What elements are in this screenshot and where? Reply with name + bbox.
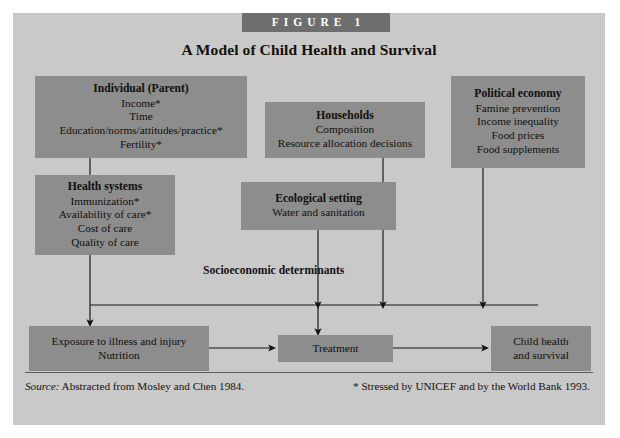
box-ecological-line-0: Water and sanitation bbox=[272, 206, 365, 220]
box-exposure-nutrition: Exposure to illness and injury Nutrition bbox=[29, 326, 209, 371]
box-individual-line-0: Income* bbox=[121, 97, 161, 111]
figure-number-tag: FIGURE 1 bbox=[242, 13, 390, 32]
box-political-line-3: Food supplements bbox=[477, 143, 560, 157]
box-individual-line-3: Fertility* bbox=[120, 138, 162, 152]
box-individual-parent: Individual (Parent) Income* Time Educati… bbox=[35, 76, 247, 158]
footer-source-text: Abstracted from Mosley and Chen 1984. bbox=[59, 380, 244, 392]
figure-footer: Source: Abstracted from Mosley and Chen … bbox=[25, 380, 593, 392]
box-childhealth-line-1: and survival bbox=[513, 349, 569, 363]
box-exposure-line-0: Exposure to illness and injury bbox=[52, 335, 187, 349]
box-health-line-2: Cost of care bbox=[78, 222, 133, 236]
socioeconomic-determinants-label: Socioeconomic determinants bbox=[203, 264, 344, 277]
footer-source-label: Source: bbox=[25, 380, 59, 392]
box-ecological-heading: Ecological setting bbox=[275, 192, 362, 206]
box-households-line-0: Composition bbox=[316, 123, 374, 137]
footer-divider bbox=[25, 372, 593, 373]
box-exposure-line-1: Nutrition bbox=[98, 349, 139, 363]
box-political-heading: Political economy bbox=[474, 87, 561, 101]
box-political-line-1: Income inequality bbox=[477, 115, 559, 129]
box-health-systems: Health systems Immunization* Availabilit… bbox=[35, 175, 175, 255]
figure-panel: FIGURE 1 A Model of Child Health and Sur… bbox=[13, 13, 605, 425]
figure-title: A Model of Child Health and Survival bbox=[13, 41, 605, 59]
box-health-line-1: Availability of care* bbox=[59, 208, 152, 222]
footer-note: * Stressed by UNICEF and by the World Ba… bbox=[353, 380, 590, 392]
box-health-line-3: Quality of care bbox=[71, 236, 139, 250]
box-treatment-line-0: Treatment bbox=[312, 342, 358, 356]
box-individual-line-1: Time bbox=[129, 110, 152, 124]
box-child-health-survival: Child health and survival bbox=[491, 326, 591, 371]
box-health-heading: Health systems bbox=[68, 180, 142, 194]
box-households: Households Composition Resource allocati… bbox=[265, 102, 425, 158]
box-individual-heading: Individual (Parent) bbox=[93, 82, 188, 96]
box-households-line-1: Resource allocation decisions bbox=[278, 137, 412, 151]
box-political-line-2: Food prices bbox=[491, 129, 544, 143]
box-political-economy: Political economy Famine prevention Inco… bbox=[451, 76, 585, 168]
box-individual-line-2: Education/norms/attitudes/practice* bbox=[59, 124, 222, 138]
box-childhealth-line-0: Child health bbox=[513, 335, 569, 349]
box-ecological-setting: Ecological setting Water and sanitation bbox=[241, 182, 396, 230]
box-political-line-0: Famine prevention bbox=[475, 102, 560, 116]
figure-root: FIGURE 1 A Model of Child Health and Sur… bbox=[0, 0, 620, 438]
box-households-heading: Households bbox=[316, 109, 373, 123]
box-health-line-0: Immunization* bbox=[70, 195, 139, 209]
box-treatment: Treatment bbox=[278, 335, 393, 362]
